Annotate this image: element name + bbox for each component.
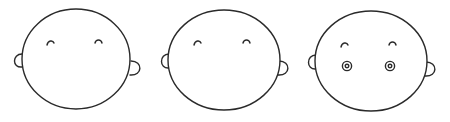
faces-svg: Face 1 Face 2 Face 3 — [0, 0, 450, 122]
face-2: Face 2 — [162, 10, 288, 110]
face-1: Face 1 — [15, 9, 140, 109]
head-outline — [168, 10, 280, 110]
head-outline — [315, 11, 427, 111]
face-3: Face 3 — [309, 11, 435, 111]
faces-diagram: Face 1 Face 2 Face 3 — [0, 0, 450, 122]
head-outline — [22, 9, 130, 109]
right-ear-icon — [130, 61, 140, 75]
left-ear-icon — [15, 54, 23, 67]
